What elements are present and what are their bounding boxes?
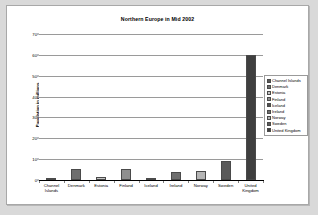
legend-swatch-icon — [267, 110, 271, 114]
x-tick-label: Norway — [188, 183, 213, 188]
x-tick-label: Estonia — [89, 183, 114, 188]
legend-label: Iceland — [272, 103, 285, 108]
y-tick-mark — [37, 117, 39, 118]
legend-swatch-icon — [267, 116, 271, 120]
legend-label: Ireland — [272, 109, 284, 114]
legend-swatch-icon — [267, 91, 271, 95]
gridline — [39, 117, 263, 118]
bar — [71, 169, 81, 180]
x-tick-mark — [263, 181, 264, 183]
gridline — [39, 159, 263, 160]
x-tick-label: Ireland — [163, 183, 188, 188]
legend-label: Finland — [272, 97, 285, 102]
y-tick-mark — [37, 159, 39, 160]
bar — [96, 177, 106, 180]
legend-label: Norway — [272, 115, 286, 120]
y-tick-mark — [37, 138, 39, 139]
legend-item: Channel Islands — [267, 78, 307, 84]
legend-swatch-icon — [267, 79, 271, 83]
gridline — [39, 138, 263, 139]
chart-title: Northern Europe in Mid 2002 — [7, 16, 308, 23]
plot-area: 010203040506070 — [39, 34, 263, 180]
gridline — [39, 34, 263, 35]
x-tick-label: Sweden — [213, 183, 238, 188]
x-axis-line — [39, 180, 264, 181]
x-tick-label: Denmark — [64, 183, 89, 188]
bar — [146, 178, 156, 180]
chart-legend: Channel IslandsDenmarkEstoniaFinlandIcel… — [264, 75, 308, 136]
legend-label: Sweden — [272, 121, 286, 126]
legend-swatch-icon — [267, 122, 271, 126]
legend-swatch-icon — [267, 85, 271, 89]
bar — [46, 178, 56, 180]
x-tick-label: Channel Islands — [39, 183, 64, 193]
gridline — [39, 76, 263, 77]
legend-item: United Kingdom — [267, 127, 307, 133]
bar — [246, 55, 256, 180]
legend-label: Denmark — [272, 84, 288, 89]
legend-label: United Kingdom — [272, 128, 300, 133]
legend-swatch-icon — [267, 128, 271, 132]
bar — [196, 171, 206, 180]
y-tick-mark — [37, 54, 39, 55]
y-tick-mark — [37, 75, 39, 76]
chart-screenshot: Northern Europe in Mid 2002 Population i… — [0, 0, 318, 215]
x-tick-label: United Kingdom — [238, 183, 263, 193]
legend-swatch-icon — [267, 103, 271, 107]
chart-frame: Northern Europe in Mid 2002 Population i… — [6, 5, 309, 205]
bar — [221, 161, 231, 180]
bar — [121, 169, 131, 180]
y-tick-mark — [37, 34, 39, 35]
gridline — [39, 55, 263, 56]
legend-label: Estonia — [272, 90, 285, 95]
x-tick-label: Iceland — [139, 183, 164, 188]
bar — [171, 172, 181, 180]
y-tick-mark — [37, 96, 39, 97]
x-tick-label: Finland — [114, 183, 139, 188]
gridline — [39, 97, 263, 98]
legend-swatch-icon — [267, 97, 271, 101]
legend-label: Channel Islands — [272, 78, 301, 83]
